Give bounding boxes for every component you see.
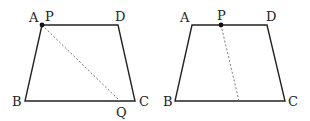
right-dashed-segment <box>221 25 239 101</box>
left-label-b: B <box>12 94 22 109</box>
left-label-c: C <box>139 94 149 109</box>
right-label-d: D <box>266 9 276 24</box>
left-label-a: A <box>28 10 39 25</box>
left-dashed-segment-pq <box>42 25 120 101</box>
left-trapezoid-abcd <box>25 25 135 101</box>
right-label-c: C <box>288 94 298 109</box>
right-point-p-dot <box>219 23 224 28</box>
right-trapezoid-abcd <box>175 25 285 101</box>
geometry-diagram: A P D B C Q A P D B C <box>0 0 310 121</box>
left-label-p: P <box>45 9 54 24</box>
left-label-q: Q <box>116 105 127 120</box>
right-label-b: B <box>163 94 173 109</box>
left-trapezoid-figure: A P D B C Q <box>12 9 149 120</box>
right-trapezoid-figure: A P D B C <box>163 8 298 109</box>
right-label-a: A <box>179 10 190 25</box>
left-label-d: D <box>115 9 125 24</box>
right-label-p: P <box>217 8 226 23</box>
left-point-p-dot <box>40 23 45 28</box>
